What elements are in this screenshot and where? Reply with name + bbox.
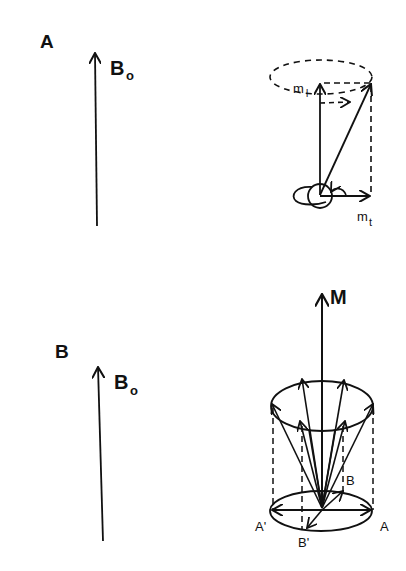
point-a-label: A <box>380 519 389 534</box>
moment-vector-arrow <box>320 84 371 195</box>
diagram-canvas: A B o m l m t B B o M <box>0 0 406 571</box>
b0-label-a: B <box>110 57 124 79</box>
magnetization-label: M <box>330 286 347 308</box>
precession-ellipse-dashed <box>270 60 372 94</box>
vector-to-b-prime <box>307 510 322 528</box>
b0-sub-b: o <box>130 383 138 398</box>
b0-arrow-a <box>95 53 97 226</box>
point-b-prime-label: B' <box>298 535 309 550</box>
m-long-label: m <box>293 81 304 96</box>
precession-direction-arrow <box>320 102 350 103</box>
m-trans-sub: t <box>369 216 372 228</box>
b0-sub-a: o <box>126 68 134 83</box>
b0-arrow-b <box>98 367 103 541</box>
point-a-prime-label: A' <box>255 519 266 534</box>
point-b-label: B <box>346 473 355 488</box>
spin-rotation-arrow <box>331 189 346 195</box>
panel-b-label: B <box>55 341 69 362</box>
panel-a: A B o m l m t <box>40 31 372 228</box>
panel-a-label: A <box>40 31 54 52</box>
b0-label-b: B <box>114 371 128 393</box>
panel-b: B B o M <box>55 286 389 550</box>
m-long-sub: l <box>306 88 308 99</box>
m-trans-label: m <box>357 209 368 224</box>
